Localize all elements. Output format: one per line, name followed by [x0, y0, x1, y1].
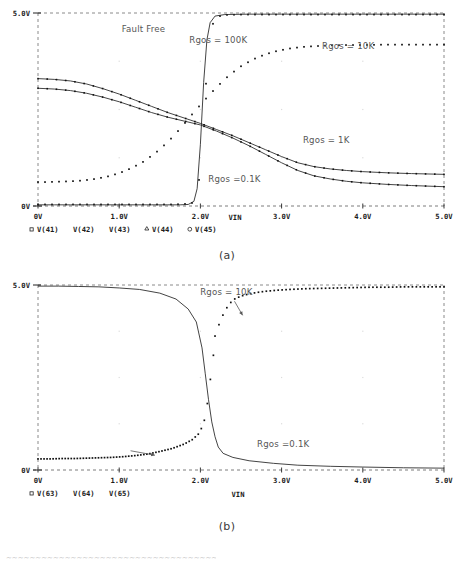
- svg-a-annotation: Fault Free: [122, 24, 166, 34]
- svg-b-annotation: Rgos =0.1K: [257, 439, 310, 449]
- plot-a-svg: 5.0V0V0V1.0V2.0V3.0V4.0V5.0VVINFault Fre…: [0, 0, 454, 245]
- chart-panel-b: 5.0V0V0V1.0V2.0V3.0V4.0V5.0VVINRgos = 10…: [0, 268, 454, 516]
- svg-a-legend-circle-marker: [188, 227, 192, 231]
- svg-b-annotation: Rgos = 10K: [200, 287, 253, 297]
- svg-b-legend-label: V(65): [109, 489, 131, 498]
- plot-b-svg: 5.0V0V0V1.0V2.0V3.0V4.0V5.0VVINRgos = 10…: [0, 268, 454, 516]
- svg-b-x-tick-label: 1.0V: [111, 476, 129, 485]
- svg-b-x-axis-label: VIN: [232, 490, 245, 499]
- figure-container: 5.0V0V0V1.0V2.0V3.0V4.0V5.0VVINFault Fre…: [0, 0, 454, 563]
- svg-b-legend-label: V(64): [73, 489, 95, 498]
- svg-b-y-tick-label: 5.0V: [13, 281, 31, 290]
- svg-a-legend-triangle-marker: [145, 227, 149, 230]
- caption-a: (a): [0, 249, 454, 262]
- page-footer-smudge: ~~~~~~~~~~~~~~~~~~~~~~~~~~~~~~~~~~~~~~~~…: [6, 556, 216, 560]
- svg-a-legend-label: V(45): [195, 225, 217, 234]
- svg-a-series-path: [38, 79, 444, 175]
- svg-a-x-axis-label: VIN: [229, 213, 242, 222]
- svg-a-x-tick-label: 5.0V: [435, 212, 453, 221]
- svg-b-x-tick-label: 0V: [34, 476, 43, 485]
- svg-a-x-tick-label: 2.0V: [192, 212, 210, 221]
- svg-a-x-tick-label: 3.0V: [273, 212, 291, 221]
- chart-panel-a: 5.0V0V0V1.0V2.0V3.0V4.0V5.0VVINFault Fre…: [0, 0, 454, 245]
- svg-a-annotation: Rgos = 10K: [322, 41, 375, 51]
- svg-a-annotation: Rgos = 100K: [189, 35, 247, 45]
- svg-a-series-path: [38, 88, 444, 186]
- svg-b-x-tick-label: 4.0V: [354, 476, 372, 485]
- svg-a-legend-label: V(44): [152, 225, 174, 234]
- svg-a-annotation: Rgos =0.1K: [208, 174, 261, 184]
- svg-b-x-tick-label: 3.0V: [273, 476, 291, 485]
- svg-a-legend-square-marker: [30, 228, 33, 231]
- svg-a-legend-label: V(42): [73, 225, 95, 234]
- svg-a-legend-label: V(43): [109, 225, 131, 234]
- svg-a-y-tick-label: 5.0V: [13, 9, 31, 18]
- svg-a-annotation: Rgos = 1K: [303, 135, 350, 145]
- svg-a-x-tick-label: 1.0V: [111, 212, 129, 221]
- svg-a-y-tick-label: 0V: [21, 202, 30, 211]
- svg-a-x-tick-label: 4.0V: [354, 212, 372, 221]
- svg-a-x-tick-label: 0V: [34, 212, 43, 221]
- svg-b-x-tick-label: 2.0V: [192, 476, 210, 485]
- svg-a-legend-label: V(41): [37, 225, 59, 234]
- svg-b-x-tick-label: 5.0V: [435, 476, 453, 485]
- svg-b-y-tick-label: 0V: [21, 466, 30, 475]
- caption-b: (b): [0, 520, 454, 533]
- svg-b-legend-label: V(63): [37, 489, 59, 498]
- svg-b-legend-square-marker: [30, 492, 33, 495]
